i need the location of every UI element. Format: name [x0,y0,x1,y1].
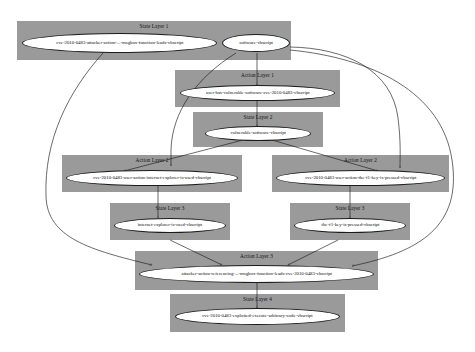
node-label: cve-2010-0483-exploited-execute-arbitrar… [202,314,312,319]
layer-title-action-layer-2-right: Action Layer 2 [272,157,449,163]
layer-title-state-layer-3-left: State Layer 3 [110,205,230,211]
node-internet-explorer-is-used-vbscript[interactable]: internet-explorer-is-used-vbscript [114,218,226,233]
layer-title-state-layer-3-right: State Layer 3 [290,205,410,211]
node-cve-2010-0483-f1-key-is-pressed[interactable]: cve-2010-0483-user-action-the-f1-key-is-… [276,170,445,186]
node-attacker-action-referencing-msgbox[interactable]: attacker-action-referencing-...-msgbox-f… [139,265,374,283]
node-label: cve-2010-0483-user-action-the-f1-key-is-… [305,176,416,181]
layer-title-state-layer-1: State Layer 1 [17,23,291,29]
node-label: vulnerable-software-vbscript [230,131,285,136]
layer-title-action-layer-1: Action Layer 1 [175,72,340,78]
layer-title-state-layer-2: State Layer 2 [193,114,323,120]
node-label: user-has-vulnerable-software-cve-2010-04… [206,91,309,96]
node-label: cve-2010-0483-attacker-action-...-msgbox… [56,41,183,46]
node-cve-2010-0483-exploited-execute-arbitrary-code[interactable]: cve-2010-0483-exploited-execute-arbitrar… [175,308,340,325]
node-cve-2010-0483-attacker-action-msgbox[interactable]: cve-2010-0483-attacker-action-...-msgbox… [22,33,217,53]
node-label: attacker-action-referencing-...-msgbox-f… [181,272,331,277]
node-vulnerable-software-vbscript[interactable]: vulnerable-software-vbscript [205,126,311,141]
layer-title-action-layer-2-left: Action Layer 2 [62,157,242,163]
node-label: cve-2010-0483-user-action-internet-explo… [93,176,211,181]
node-label: the-f1-key-is-pressed-vbscript [321,223,379,228]
node-the-f1-key-is-pressed-vbscript[interactable]: the-f1-key-is-pressed-vbscript [294,218,406,233]
node-software-vbscript[interactable]: software-vbscript [222,34,290,52]
layer-title-action-layer-3: Action Layer 3 [135,253,378,259]
node-cve-2010-0483-internet-explorer-is-used[interactable]: cve-2010-0483-user-action-internet-explo… [66,170,238,186]
edge-n2-n6 [290,47,400,168]
layer-title-state-layer-4: State Layer 4 [170,296,345,302]
attack-graph-diagram: State Layer 1 Action Layer 1 State Layer… [0,0,475,352]
node-user-has-vulnerable-software[interactable]: user-has-vulnerable-software-cve-2010-04… [180,85,335,101]
node-label: software-vbscript [239,41,273,46]
node-label: internet-explorer-is-used-vbscript [138,223,202,228]
